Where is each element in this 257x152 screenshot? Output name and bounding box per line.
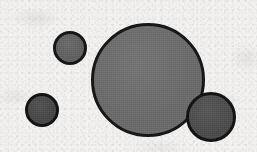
figure-canvas	[0, 0, 257, 152]
circle-medium-lower-right	[186, 92, 236, 142]
circle-small-lower-left	[25, 93, 59, 127]
circle-small-upper-left	[53, 31, 87, 65]
